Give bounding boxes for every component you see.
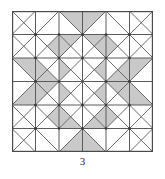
grid-node-dot xyxy=(81,104,84,107)
grid-node-dot xyxy=(81,57,84,60)
grid-node-dot xyxy=(34,127,37,130)
grid-node-dot xyxy=(105,127,108,130)
grid-node-dot xyxy=(34,104,37,107)
figure-caption: 3 xyxy=(80,155,86,167)
quilt-figure: 3 xyxy=(0,0,165,179)
grid-node-dot xyxy=(58,80,61,83)
grid-and-diagonal-lines-layer xyxy=(12,11,153,152)
grid-node-dot xyxy=(128,104,131,107)
grid-node-dot xyxy=(58,104,61,107)
grid-node-dot xyxy=(128,33,131,36)
grid-node-dot xyxy=(34,33,37,36)
grid-node-dot xyxy=(105,33,108,36)
grid-node-dot xyxy=(34,57,37,60)
grid-node-dot xyxy=(128,127,131,130)
grid-node-dot xyxy=(128,57,131,60)
grid-node-dot xyxy=(105,80,108,83)
grid-node-dot xyxy=(81,33,84,36)
grid-node-dot xyxy=(34,80,37,83)
grid-node-dot xyxy=(58,127,61,130)
grid-node-dot xyxy=(105,57,108,60)
grid-node-dot xyxy=(105,104,108,107)
grid-node-dot xyxy=(128,80,131,83)
grid-node-dot xyxy=(81,127,84,130)
figure-container: 3 xyxy=(0,0,165,179)
quilt-block-svg xyxy=(12,11,153,152)
quilt-block-diagram xyxy=(12,11,153,152)
grid-node-dot xyxy=(58,33,61,36)
grid-node-dot xyxy=(58,57,61,60)
